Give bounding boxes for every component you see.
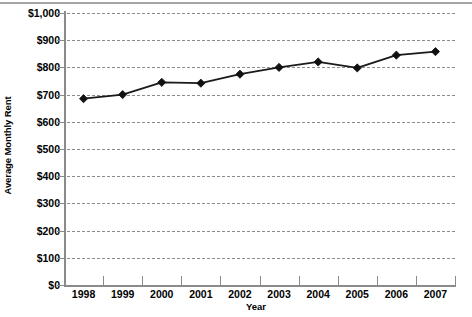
chart-figure: Average Monthly Rent $0$100$200$300$400$… xyxy=(0,0,472,317)
series-markers xyxy=(79,48,439,103)
data-point-marker xyxy=(158,78,166,86)
x-axis-title: Year xyxy=(0,301,472,312)
data-point-marker xyxy=(236,70,244,78)
data-point-marker xyxy=(392,51,400,59)
x-axis-title-text: Year xyxy=(246,301,266,312)
data-series-layer xyxy=(0,0,472,317)
data-point-marker xyxy=(431,48,439,56)
data-point-marker xyxy=(353,64,361,72)
series-line-average-monthly-rent xyxy=(84,52,436,99)
data-point-marker xyxy=(79,95,87,103)
data-point-marker xyxy=(314,58,322,66)
data-point-marker xyxy=(275,63,283,71)
data-point-marker xyxy=(197,79,205,87)
data-point-marker xyxy=(119,91,127,99)
